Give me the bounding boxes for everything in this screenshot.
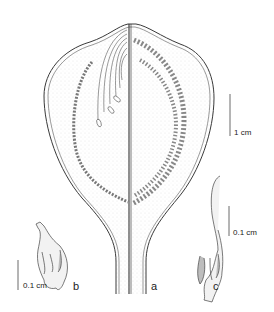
panel-label-a: a xyxy=(151,281,157,292)
panel-b-structure xyxy=(36,222,67,290)
scale-label-main: 1 cm xyxy=(234,129,251,137)
panel-a-capsule xyxy=(44,24,214,294)
panel-label-b: b xyxy=(73,281,79,292)
scale-label-c: 0.1 cm xyxy=(233,229,257,237)
panel-label-c: c xyxy=(213,281,219,292)
scale-label-b: 0.1 cm xyxy=(23,282,47,290)
figure-illustration xyxy=(0,0,274,312)
panel-c-structure xyxy=(198,176,223,302)
